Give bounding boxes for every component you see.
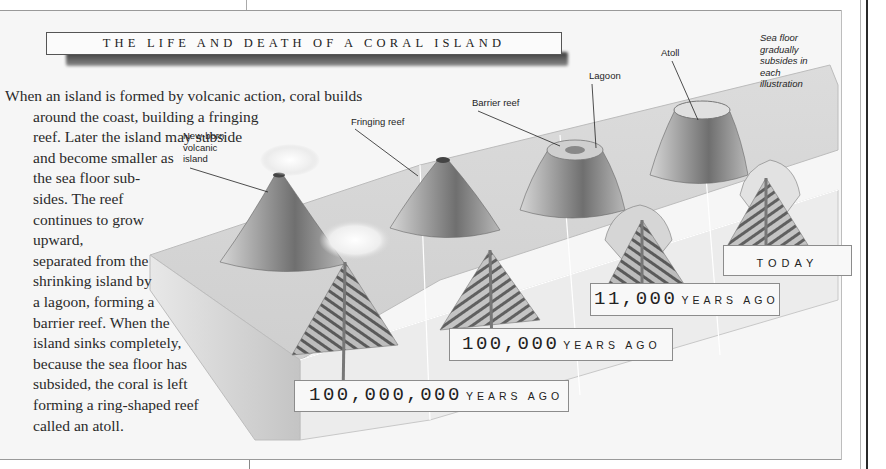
- label-line: volcanic: [183, 142, 224, 154]
- intro-line: sides. The reef: [5, 189, 305, 210]
- label-line: island: [183, 153, 224, 165]
- intro-line: reef. Later the island may subside: [5, 127, 305, 148]
- label-line: illustration: [760, 78, 808, 90]
- intro-line: shrinking island by: [5, 271, 305, 292]
- intro-line: barrier reef. When the: [5, 313, 305, 334]
- era-box-today: TODAY: [723, 245, 852, 276]
- intro-line: around the coast, building a fringing: [5, 107, 305, 128]
- era-unit: YEARS AGO: [466, 390, 563, 402]
- label-line: New-born: [183, 130, 224, 142]
- label-line: Sea floor: [760, 32, 808, 44]
- intro-paragraph: When an island is formed by volcanic act…: [5, 86, 305, 436]
- label-sea-floor-note: Sea floor gradually subsides in each ill…: [760, 32, 808, 90]
- era-unit: YEARS AGO: [563, 339, 660, 351]
- label-fringing-reef: Fringing reef: [351, 116, 404, 128]
- era-box-11000-years-ago: 11,000YEARS AGO: [590, 283, 780, 316]
- label-atoll: Atoll: [661, 47, 679, 59]
- intro-line: subsided, the coral is left: [5, 374, 305, 395]
- intro-line: island sinks completely,: [5, 333, 305, 354]
- era-unit: YEARS AGO: [681, 294, 778, 306]
- label-line: each: [760, 67, 808, 79]
- label-barrier-reef: Barrier reef: [472, 97, 520, 109]
- page-title: THE LIFE AND DEATH OF A CORAL ISLAND: [46, 32, 562, 55]
- era-unit: TODAY: [757, 257, 819, 269]
- era-number: 100,000: [462, 333, 559, 355]
- intro-line: forming a ring-shaped reef: [5, 395, 305, 416]
- era-number: 100,000,000: [309, 384, 462, 406]
- intro-line: the sea floor sub-: [5, 168, 305, 189]
- era-number: 11,000: [594, 288, 677, 310]
- intro-line: upward,: [5, 230, 305, 251]
- label-line: gradually: [760, 44, 808, 56]
- label-new-born-volcanic-island: New-born volcanic island: [183, 130, 224, 165]
- label-line: subsides in: [760, 55, 808, 67]
- era-box-100000-years-ago: 100,000YEARS AGO: [449, 328, 673, 361]
- label-lagoon: Lagoon: [589, 70, 621, 82]
- intro-line: called an atoll.: [5, 416, 305, 437]
- intro-line: When an island is formed by volcanic act…: [5, 86, 305, 107]
- era-box-100000000-years-ago: 100,000,000YEARS AGO: [294, 380, 569, 412]
- intro-line: separated from the: [5, 251, 305, 272]
- intro-line: because the sea floor has: [5, 354, 305, 375]
- intro-line: continues to grow: [5, 210, 305, 231]
- intro-line: a lagoon, forming a: [5, 292, 305, 313]
- intro-line: and become smaller as: [5, 148, 305, 169]
